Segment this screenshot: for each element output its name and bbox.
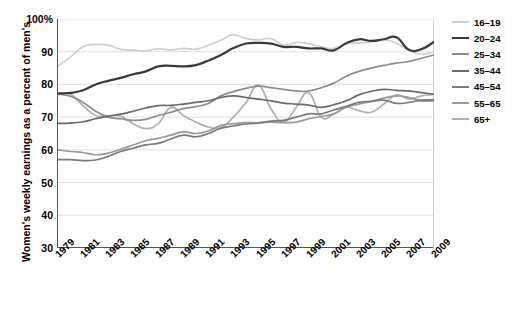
legend-swatch-icon bbox=[452, 118, 469, 120]
legend-item[interactable]: 25–34 bbox=[452, 46, 520, 62]
legend-item-label: 55–65 bbox=[474, 98, 500, 109]
legend: 16–1920–2425–3435–4445–5455–6565+ bbox=[452, 14, 520, 127]
x-tick-label: 1981 bbox=[78, 236, 102, 260]
legend-item-label: 25–34 bbox=[474, 49, 500, 60]
legend-swatch-icon bbox=[452, 70, 469, 72]
x-tick-label: 1997 bbox=[279, 236, 303, 260]
legend-item[interactable]: 20–24 bbox=[452, 30, 520, 46]
x-tick-label: 2007 bbox=[404, 236, 428, 260]
legend-item[interactable]: 16–19 bbox=[452, 14, 520, 30]
legend-swatch-icon bbox=[452, 21, 469, 23]
x-tick-label: 1987 bbox=[153, 236, 177, 260]
x-tick-label: 2005 bbox=[379, 236, 403, 260]
x-tick-label: 1983 bbox=[103, 236, 127, 260]
x-tick-label: 1979 bbox=[53, 236, 77, 260]
x-tick-label: 1995 bbox=[254, 236, 278, 260]
legend-swatch-icon bbox=[452, 37, 469, 39]
legend-item-label: 45–54 bbox=[474, 81, 500, 92]
legend-item-label: 16–19 bbox=[474, 17, 500, 28]
x-tick-label: 1993 bbox=[228, 236, 252, 260]
legend-item[interactable]: 45–54 bbox=[452, 79, 520, 95]
legend-item-label: 35–44 bbox=[474, 65, 500, 76]
x-tick-label: 1999 bbox=[304, 236, 328, 260]
legend-item[interactable]: 55–65 bbox=[452, 95, 520, 111]
legend-item-label: 20–24 bbox=[474, 33, 500, 44]
legend-item[interactable]: 65+ bbox=[452, 111, 520, 127]
x-tick-label: 2009 bbox=[429, 236, 453, 260]
line-chart: Women's weekly earnings as a percent of … bbox=[0, 0, 520, 319]
legend-swatch-icon bbox=[452, 86, 469, 88]
legend-swatch-icon bbox=[452, 102, 469, 104]
x-tick-label: 1985 bbox=[128, 236, 152, 260]
legend-item[interactable]: 35–44 bbox=[452, 63, 520, 79]
x-axis-tick-labels: 1979198119831985198719891991199319951997… bbox=[0, 0, 520, 319]
x-tick-label: 1991 bbox=[203, 236, 227, 260]
x-tick-label: 1989 bbox=[178, 236, 202, 260]
legend-swatch-icon bbox=[452, 53, 469, 55]
legend-item-label: 65+ bbox=[474, 114, 490, 125]
x-tick-label: 2003 bbox=[354, 236, 378, 260]
x-tick-label: 2001 bbox=[329, 236, 353, 260]
